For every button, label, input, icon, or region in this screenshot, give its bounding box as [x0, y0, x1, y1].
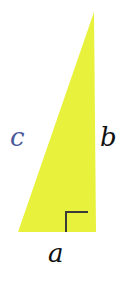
hypotenuse-label-c: c: [10, 124, 25, 150]
triangle-shape: [18, 12, 96, 232]
horizontal-leg-label-a: a: [48, 240, 64, 266]
vertical-leg-label-b: b: [100, 124, 117, 150]
